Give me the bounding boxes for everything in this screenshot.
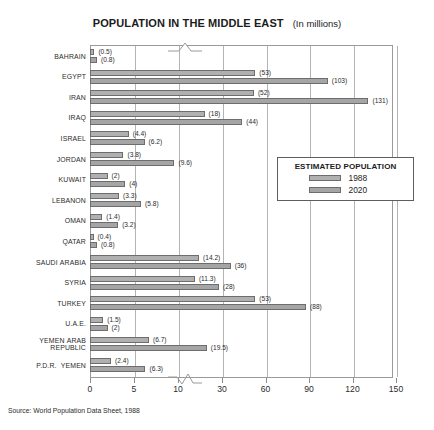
- bar-1988-syria[interactable]: [90, 276, 195, 282]
- bar-2020-turkey[interactable]: [90, 304, 306, 310]
- bar-row: (14.2)(36): [90, 255, 393, 276]
- bar-1988-p-d-r-yemen[interactable]: [90, 358, 111, 364]
- axis-break-top-icon: [168, 38, 202, 48]
- bar-1988-israel[interactable]: [90, 131, 129, 137]
- value-label-1988: (3.3): [123, 192, 137, 199]
- bar-row: (11.3)(28): [90, 276, 393, 297]
- bar-1988-egypt[interactable]: [90, 70, 255, 76]
- category-label-israel: ISRAEL: [0, 135, 86, 143]
- axis-break-bottom-icon: [168, 372, 202, 386]
- value-axis: 0510306090120150: [90, 378, 393, 402]
- value-label-2020: (88): [310, 303, 322, 310]
- axis-tick-0: [90, 378, 91, 383]
- bar-row: (4.4)(6.2): [90, 131, 393, 152]
- category-label-yemen-arab-republic: YEMEN ARABREPUBLIC: [0, 337, 86, 352]
- bar-2020-qatar[interactable]: [90, 242, 97, 248]
- page-title: POPULATION IN THE MIDDLE EAST: [93, 17, 284, 29]
- chart-subtitle: (In millions): [293, 18, 342, 29]
- bar-row: (2.4)(6.3): [90, 358, 393, 379]
- axis-tick-120: [353, 378, 354, 383]
- bar-2020-oman[interactable]: [90, 222, 118, 228]
- bar-2020-u-a-e-[interactable]: [90, 325, 108, 331]
- axis-tick-label-60: 60: [261, 384, 271, 394]
- value-label-2020: (131): [372, 97, 387, 104]
- legend-label-2020: 2020: [349, 185, 383, 195]
- bar-1988-yemen-arab-republic[interactable]: [90, 337, 149, 343]
- value-label-1988: (4.4): [133, 130, 147, 137]
- category-label-p-d-r-yemen: P.D.R. YEMEN: [0, 362, 86, 370]
- bar-2020-egypt[interactable]: [90, 78, 328, 84]
- axis-tick-label-30: 30: [217, 384, 227, 394]
- value-label-2020: (28): [223, 283, 235, 290]
- bar-1988-turkey[interactable]: [90, 296, 255, 302]
- bar-2020-p-d-r-yemen[interactable]: [90, 366, 145, 372]
- category-label-qatar: QATAR: [0, 238, 86, 246]
- bar-2020-jordan[interactable]: [90, 160, 174, 166]
- bar-1988-oman[interactable]: [90, 214, 102, 220]
- value-label-1988: (53): [259, 295, 271, 302]
- value-label-1988: (1.5): [107, 316, 121, 323]
- value-label-1988: (18): [209, 110, 221, 117]
- axis-tick-label-120: 120: [345, 384, 359, 394]
- category-label-kuwait: KUWAIT: [0, 176, 86, 184]
- bar-1988-u-a-e-[interactable]: [90, 317, 103, 323]
- category-label-iran: IRAN: [0, 94, 86, 102]
- bar-row: (18)(44): [90, 111, 393, 132]
- bar-2020-syria[interactable]: [90, 284, 219, 290]
- value-label-2020: (0.8): [101, 56, 115, 63]
- legend: ESTIMATED POPULATION 1988 2020: [277, 157, 414, 201]
- bar-1988-bahrain[interactable]: [90, 49, 94, 55]
- bar-2020-saudi-arabia[interactable]: [90, 263, 231, 269]
- bar-2020-bahrain[interactable]: [90, 57, 97, 63]
- value-label-1988: (6.7): [153, 336, 167, 343]
- bar-1988-jordan[interactable]: [90, 152, 123, 158]
- axis-tick-150: [396, 378, 397, 383]
- bar-1988-iraq[interactable]: [90, 111, 205, 117]
- bar-2020-yemen-arab-republic[interactable]: [90, 345, 207, 351]
- category-label-oman: OMAN: [0, 217, 86, 225]
- bar-2020-iran[interactable]: [90, 98, 368, 104]
- bar-2020-iraq[interactable]: [90, 119, 242, 125]
- category-label-iraq: IRAQ: [0, 114, 86, 122]
- legend-title: ESTIMATED POPULATION: [278, 162, 413, 171]
- bar-1988-saudi-arabia[interactable]: [90, 255, 199, 261]
- bar-row: (6.7)(19.5): [90, 337, 393, 358]
- value-label-1988: (1.4): [106, 213, 120, 220]
- legend-item-1988: 1988: [278, 173, 413, 183]
- value-label-2020: (2): [112, 324, 120, 331]
- bar-row: (1.4)(3.2): [90, 214, 393, 235]
- category-label-turkey: TURKEY: [0, 300, 86, 308]
- bar-1988-qatar[interactable]: [90, 234, 94, 240]
- axis-tick-60: [266, 378, 267, 383]
- value-label-2020: (19.5): [211, 344, 228, 351]
- axis-tick-90: [309, 378, 310, 383]
- value-label-2020: (3.2): [122, 221, 136, 228]
- axis-tick-30: [222, 378, 223, 383]
- legend-label-1988: 1988: [349, 173, 383, 183]
- value-label-1988: (53): [259, 69, 271, 76]
- legend-item-2020: 2020: [278, 185, 413, 195]
- value-label-2020: (6.3): [149, 365, 163, 372]
- bar-2020-israel[interactable]: [90, 139, 145, 145]
- category-label-u-a-e-: U.A.E.: [0, 320, 86, 328]
- bar-1988-kuwait[interactable]: [90, 173, 108, 179]
- bar-rows: (0.5)(0.8)(53)(103)(52)(131)(18)(44)(4.4…: [90, 45, 393, 378]
- value-label-1988: (3.8): [127, 151, 141, 158]
- value-label-2020: (4): [129, 180, 137, 187]
- bar-1988-iran[interactable]: [90, 90, 254, 96]
- bar-row: (0.5)(0.8): [90, 49, 393, 70]
- category-label-saudi-arabia: SAUDI ARABIA: [0, 259, 86, 267]
- bar-2020-lebanon[interactable]: [90, 201, 141, 207]
- bar-1988-lebanon[interactable]: [90, 193, 119, 199]
- bar-row: (52)(131): [90, 90, 393, 111]
- value-label-1988: (2): [112, 172, 120, 179]
- axis-tick-label-5: 5: [132, 384, 137, 394]
- bar-row: (1.5)(2): [90, 317, 393, 338]
- bar-2020-kuwait[interactable]: [90, 181, 125, 187]
- category-label-syria: SYRIA: [0, 279, 86, 287]
- value-label-1988: (2.4): [115, 357, 129, 364]
- value-label-2020: (0.8): [101, 241, 115, 248]
- axis-tick-5: [134, 378, 135, 383]
- bar-row: (53)(103): [90, 70, 393, 91]
- bar-row: (53)(88): [90, 296, 393, 317]
